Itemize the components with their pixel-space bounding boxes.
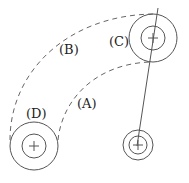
arm-line: [137, 8, 158, 146]
path-b-arc: [10, 14, 156, 140]
path-a-arc: [58, 62, 150, 140]
label-d: (D): [26, 106, 47, 121]
diagram-canvas: (B) (C) (A) (D): [0, 0, 189, 183]
label-b: (B): [59, 42, 79, 57]
label-a: (A): [77, 96, 97, 111]
label-c: (C): [109, 34, 129, 49]
pivot-circle: [123, 130, 153, 160]
circle-d: [10, 122, 58, 170]
